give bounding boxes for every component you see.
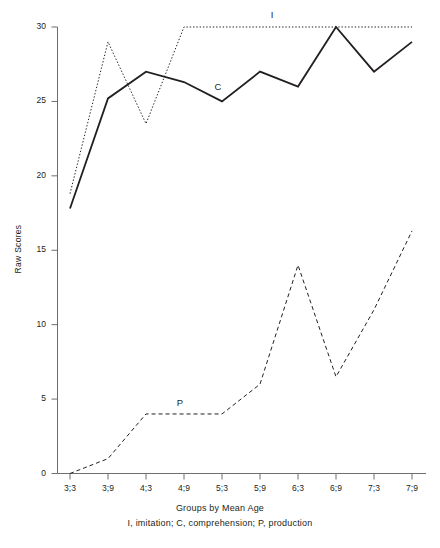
series-label-i: I [265,9,279,20]
y-axis-title: Raw Scores [13,219,23,279]
series-line-i [70,27,412,194]
y-tick-label: 10 [22,319,46,329]
y-tick-label: 30 [22,21,46,31]
y-axis-ticks [52,27,58,474]
x-tick-label: 7;9 [397,483,427,493]
series-label-c: C [211,81,225,92]
y-tick-label: 25 [22,95,46,105]
series-line-p [70,231,412,474]
chart-figure: 051015202530 3;33;94;34;95;35;96;36;97;3… [0,0,440,548]
x-tick-label: 4;3 [131,483,161,493]
series-label-p: P [173,397,187,408]
x-axis-ticks [70,474,412,480]
x-tick-label: 5;3 [207,483,237,493]
y-tick-label: 0 [22,468,46,478]
series-paths [70,27,412,474]
chart-footnote: I, imitation; C, comprehension; P, produ… [0,518,440,528]
x-tick-label: 7;3 [359,483,389,493]
y-tick-label: 20 [22,170,46,180]
x-tick-label: 5;9 [245,483,275,493]
x-tick-label: 3;9 [93,483,123,493]
y-tick-label: 15 [22,244,46,254]
x-tick-label: 4;9 [169,483,199,493]
series-line-c [70,27,412,209]
x-tick-label: 6;9 [321,483,351,493]
x-axis-title: Groups by Mean Age [0,503,440,513]
x-tick-label: 3;3 [55,483,85,493]
x-tick-label: 6;3 [283,483,313,493]
y-tick-label: 5 [22,393,46,403]
